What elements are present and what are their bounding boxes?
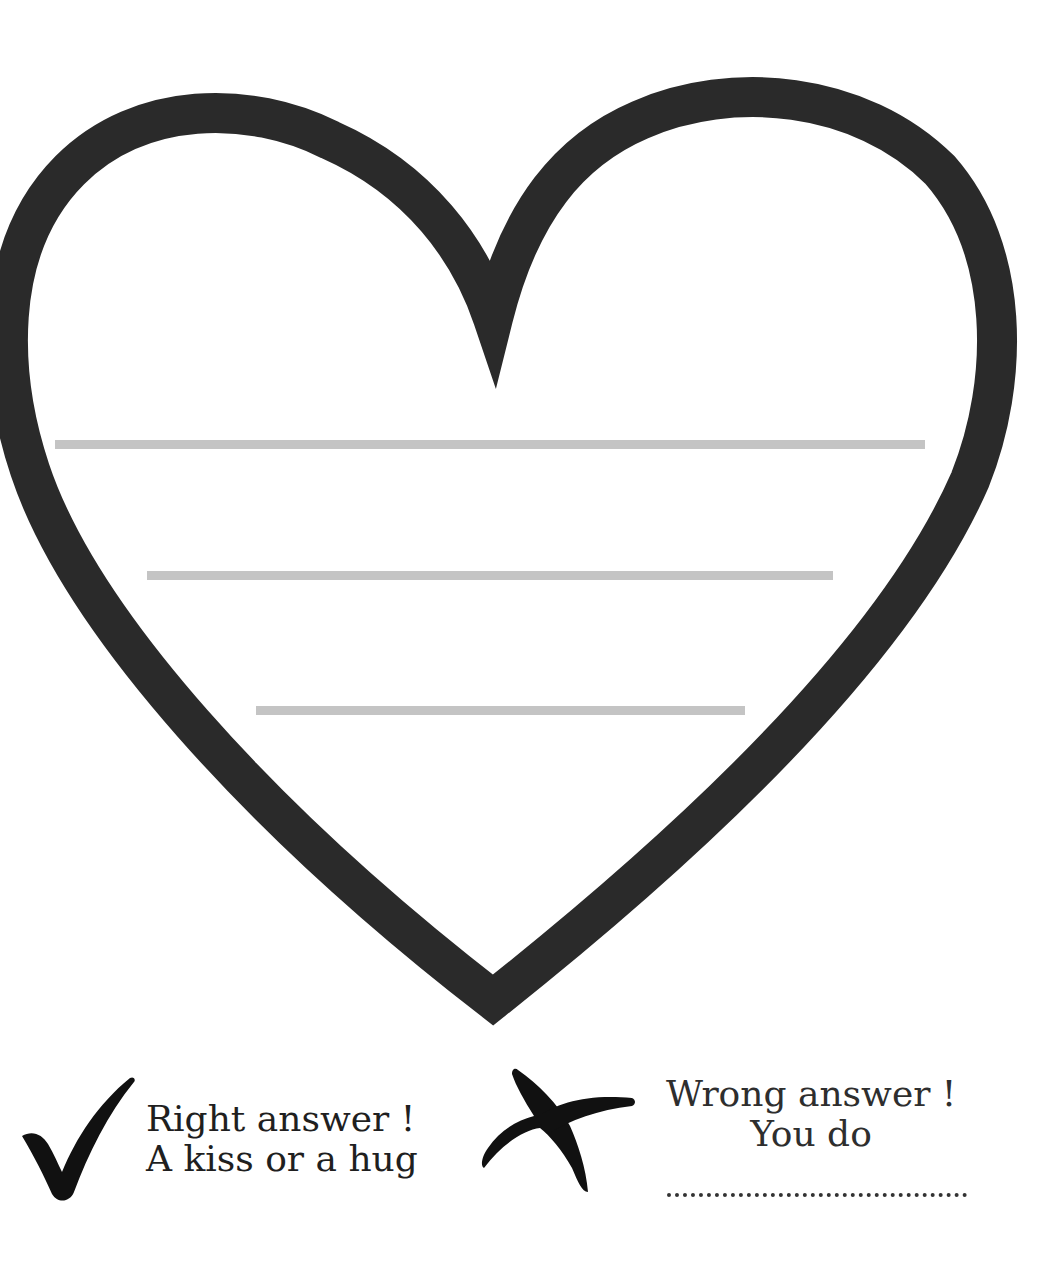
right-answer-text: Right answer ! A kiss or a hug xyxy=(146,1099,418,1179)
writing-line-3[interactable] xyxy=(256,706,745,715)
heart-shape xyxy=(8,97,997,1000)
right-answer-line2: A kiss or a hug xyxy=(146,1139,418,1179)
wrong-answer-line2: You do xyxy=(666,1114,956,1154)
checkmark-icon xyxy=(18,1074,138,1204)
cross-icon xyxy=(478,1064,638,1199)
fill-in-blank[interactable] xyxy=(667,1193,967,1197)
heart-outline xyxy=(0,0,1054,1040)
wrong-answer-line1: Wrong answer ! xyxy=(666,1074,956,1114)
right-answer-line1: Right answer ! xyxy=(146,1099,418,1139)
writing-line-1[interactable] xyxy=(55,440,925,449)
wrong-answer-text: Wrong answer ! You do xyxy=(666,1074,956,1154)
writing-line-2[interactable] xyxy=(147,571,833,580)
